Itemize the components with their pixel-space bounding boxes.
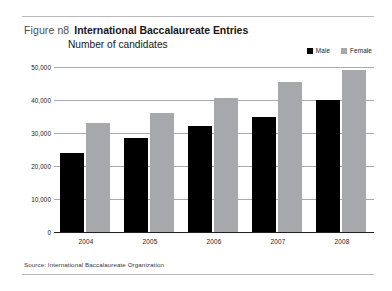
- x-axis-tick-label: 2007: [271, 238, 286, 245]
- x-axis-tick-label: 2004: [79, 238, 94, 245]
- x-axis-tick-label: 2006: [207, 238, 222, 245]
- figure-container: Figure n8International Baccalaureate Ent…: [0, 0, 392, 291]
- legend-item-female: Female: [341, 47, 372, 54]
- chart-legend: Male Female: [307, 47, 372, 54]
- y-axis-tick-label: 10,000: [31, 196, 51, 203]
- legend-label-female: Female: [350, 47, 372, 54]
- y-axis-tick-label: 0: [47, 229, 51, 236]
- bar-female-2005: [150, 113, 174, 232]
- y-axis-tick-label: 20,000: [31, 163, 51, 170]
- legend-swatch-male-icon: [307, 48, 313, 54]
- bar-group: [188, 67, 239, 232]
- bar-male-2006: [188, 126, 212, 232]
- bar-male-2004: [60, 153, 84, 232]
- legend-item-male: Male: [307, 47, 330, 54]
- top-divider: [22, 16, 374, 17]
- legend-label-male: Male: [316, 47, 330, 54]
- figure-title-line: Figure n8International Baccalaureate Ent…: [24, 22, 364, 37]
- bar-male-2007: [252, 117, 276, 233]
- axis-baseline: 0: [54, 232, 374, 233]
- bottom-divider: [22, 274, 374, 275]
- y-axis-tick-label: 40,000: [31, 97, 51, 104]
- bar-female-2007: [278, 82, 302, 232]
- bars-layer: [54, 67, 374, 232]
- bar-female-2008: [342, 70, 366, 232]
- bar-group: [60, 67, 111, 232]
- bar-female-2004: [86, 123, 110, 232]
- figure-source: Source: International Baccalaureate Orga…: [24, 261, 164, 268]
- bar-female-2006: [214, 98, 238, 232]
- bar-group: [124, 67, 175, 232]
- y-axis-tick-label: 50,000: [31, 64, 51, 71]
- bar-group: [252, 67, 303, 232]
- y-axis-tick-label: 30,000: [31, 130, 51, 137]
- page-title: International Baccalaureate Entries: [74, 24, 248, 36]
- legend-swatch-female-icon: [341, 48, 347, 54]
- x-axis-tick-label: 2008: [335, 238, 350, 245]
- chart-plot-area: 010,00020,00030,00040,00050,000 20042005…: [54, 67, 374, 232]
- bar-male-2005: [124, 138, 148, 232]
- chart-plot-wrapper: 010,00020,00030,00040,00050,000 20042005…: [22, 62, 374, 240]
- figure-number: Figure n8: [24, 24, 69, 36]
- x-axis-tick-label: 2005: [143, 238, 158, 245]
- bar-group: [316, 67, 367, 232]
- bar-male-2008: [316, 100, 340, 232]
